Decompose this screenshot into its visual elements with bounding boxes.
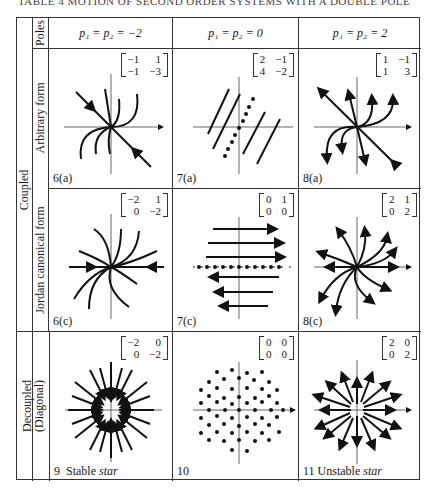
cell-8c: 2102 8(c) — [299, 189, 421, 331]
cell-6a: −11−1−3 6(a) — [49, 49, 172, 188]
cell-10: 0000 10 — [173, 332, 298, 481]
column-header-pos2: p₁ = p₂ = 2 — [299, 18, 421, 48]
phase-portrait-stable-improper-node — [49, 189, 172, 331]
arbitrary-form-label: Arbitrary form — [34, 83, 46, 154]
figure-caption: 8(c) — [303, 314, 322, 329]
phase-portrait-unstable-improper-node — [299, 189, 421, 331]
decoupled-label: Decoupled (Diagonal) — [21, 380, 45, 432]
column-header-neg2: p₁ = p₂ = −2 — [49, 18, 172, 48]
row-label-jordan: Jordan canonical form — [32, 188, 48, 331]
phase-portrait-stable-node — [49, 49, 172, 188]
figure-caption: 10 — [177, 464, 189, 479]
cell-7a: 2−14−2 7(a) — [173, 49, 298, 188]
cell-7c: 0100 7(c) — [173, 189, 298, 331]
poles-label: Poles — [32, 18, 48, 48]
cell-11: 2002 11 Unstable star — [299, 332, 421, 481]
figure-caption: 11 Unstable star — [303, 464, 382, 479]
figure-caption: 6(c) — [53, 314, 72, 329]
figure-caption: 6(a) — [53, 171, 72, 186]
poles-label-text: Poles — [34, 20, 46, 46]
row-group-coupled: Coupled — [17, 48, 32, 331]
column-header-zero: p₁ = p₂ = 0 — [173, 18, 298, 48]
phase-portrait-table: Poles Coupled Arbitrary form Jordan cano… — [16, 17, 420, 480]
phase-portrait-unstable-node — [299, 49, 421, 188]
row-label-arbitrary: Arbitrary form — [32, 48, 48, 188]
table-title: TABLE 4 MOTION OF SECOND ORDER SYSTEMS W… — [18, 0, 410, 7]
figure-caption: 7(c) — [177, 314, 196, 329]
phase-portrait-unstable-star — [299, 332, 421, 481]
coupled-label: Coupled — [19, 169, 31, 210]
row-group-decoupled: Decoupled (Diagonal) — [17, 331, 49, 481]
jordan-form-label: Jordan canonical form — [34, 206, 46, 313]
phase-portrait-stable-star — [50, 332, 172, 481]
cell-9: −200−2 9 Stable star — [50, 332, 172, 481]
cell-6c: −210−2 6(c) — [49, 189, 172, 331]
phase-portrait-degenerate-line — [173, 49, 298, 188]
figure-caption: 9 Stable star — [54, 464, 118, 479]
figure-caption: 8(a) — [303, 171, 322, 186]
phase-portrait-jordan-zero — [173, 189, 298, 331]
phase-portrait-equilibrium-plane — [173, 332, 298, 481]
figure-caption: 7(a) — [177, 171, 196, 186]
cell-8a: 1−113 8(a) — [299, 49, 421, 188]
